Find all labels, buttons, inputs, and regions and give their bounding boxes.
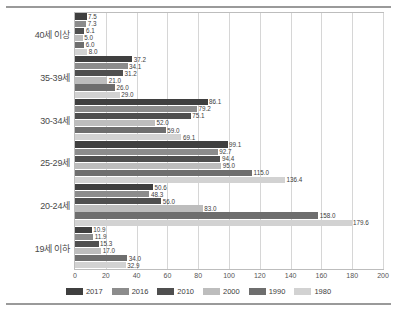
legend-swatch-1980 [294, 288, 311, 295]
bottom-divider [6, 303, 391, 305]
bar-row: 11.9 [75, 234, 397, 240]
bar-row: 37.2 [75, 56, 397, 62]
legend-item-1980[interactable]: 1980 [294, 287, 331, 296]
legend-label-1980: 1980 [314, 287, 331, 296]
bar-row: 10.9 [75, 227, 397, 233]
bar-2016-5 [75, 234, 93, 240]
bar-row: 15.3 [75, 241, 397, 247]
bar-group-2: 86.179.275.152.059.069.1 [75, 99, 397, 141]
bar-1980-2 [75, 134, 181, 140]
y-axis-label-3: 25-29세 [0, 156, 70, 169]
bar-row: 83.0 [75, 205, 397, 211]
top-divider [6, 6, 391, 8]
bar-row: 94.4 [75, 156, 397, 162]
bar-row: 136.4 [75, 177, 397, 183]
bar-row: 158.0 [75, 212, 397, 218]
bar-value-label: 115.0 [252, 168, 269, 177]
legend-swatch-2017 [66, 288, 83, 295]
bar-1980-4 [75, 220, 352, 226]
bar-group-4: 50.648.356.083.0158.0179.6 [75, 184, 397, 226]
bar-value-label: 83.0 [203, 204, 217, 213]
legend-label-2010: 2010 [177, 287, 194, 296]
bar-row: 31.2 [75, 70, 397, 76]
chart-container: 40세 이상35-39세30-34세25-29세20-24세19세 이하 7.5… [0, 0, 397, 316]
x-tick-0: 0 [63, 272, 87, 279]
bar-2010-5 [75, 241, 99, 247]
bar-2000-0 [75, 35, 83, 41]
bar-2010-3 [75, 156, 220, 162]
x-tick-40: 40 [125, 272, 149, 279]
bar-value-label: 59.0 [166, 126, 180, 135]
bar-2017-4 [75, 184, 153, 190]
x-tick-20: 20 [94, 272, 118, 279]
bar-2017-5 [75, 227, 92, 233]
bar-row: 79.2 [75, 106, 397, 112]
bar-row: 32.9 [75, 262, 397, 268]
bar-row: 75.1 [75, 113, 397, 119]
x-tick-160: 160 [309, 272, 333, 279]
bar-value-label: 179.6 [352, 218, 369, 227]
bar-1980-3 [75, 177, 285, 183]
bar-2017-0 [75, 13, 87, 19]
bar-row: 50.6 [75, 184, 397, 190]
legend-item-2010[interactable]: 2010 [157, 287, 194, 296]
x-tick-60: 60 [155, 272, 179, 279]
legend-item-1990[interactable]: 1990 [249, 287, 286, 296]
bar-value-label: 158.0 [318, 211, 335, 220]
bar-value-label: 75.1 [191, 111, 205, 120]
x-tick-100: 100 [217, 272, 241, 279]
bar-value-label: 17.0 [101, 246, 115, 255]
bar-value-label: 32.9 [126, 261, 140, 270]
legend-item-2016[interactable]: 2016 [112, 287, 149, 296]
bar-2016-1 [75, 63, 128, 69]
bar-2017-3 [75, 141, 228, 147]
bar-value-label: 136.4 [285, 175, 302, 184]
legend-label-1990: 1990 [269, 287, 286, 296]
legend-label-2000: 2000 [223, 287, 240, 296]
bar-value-label: 31.2 [123, 69, 137, 78]
bar-row: 8.0 [75, 49, 397, 55]
y-axis-label-4: 20-24세 [0, 199, 70, 212]
legend-item-2017[interactable]: 2017 [66, 287, 103, 296]
bar-group-3: 99.192.794.495.0115.0136.4 [75, 141, 397, 183]
bar-2000-2 [75, 120, 155, 126]
bar-row: 34.0 [75, 255, 397, 261]
bar-2016-4 [75, 191, 149, 197]
bar-value-label: 56.0 [161, 197, 175, 206]
bar-1980-1 [75, 92, 120, 98]
bar-1990-5 [75, 255, 127, 261]
bar-row: 7.5 [75, 13, 397, 19]
bar-row: 99.1 [75, 141, 397, 147]
bar-group-1: 37.234.131.221.026.029.0 [75, 56, 397, 98]
bar-value-label: 29.0 [120, 90, 134, 99]
bar-value-label: 8.0 [87, 47, 97, 56]
bar-row: 86.1 [75, 99, 397, 105]
bar-1980-5 [75, 262, 126, 268]
legend-swatch-2000 [203, 288, 220, 295]
legend-label-2017: 2017 [86, 287, 103, 296]
y-axis-label-5: 19세 이하 [0, 242, 70, 255]
x-tick-180: 180 [340, 272, 364, 279]
bar-row: 52.0 [75, 120, 397, 126]
bar-2017-2 [75, 99, 208, 105]
bar-group-5: 10.911.915.317.034.032.9 [75, 227, 397, 269]
bar-row: 115.0 [75, 170, 397, 176]
legend-item-2000[interactable]: 2000 [203, 287, 240, 296]
bar-2000-1 [75, 77, 107, 83]
bar-2000-5 [75, 248, 101, 254]
y-axis-label-1: 35-39세 [0, 71, 70, 84]
legend-swatch-2010 [157, 288, 174, 295]
y-axis-label-2: 30-34세 [0, 114, 70, 127]
y-axis-label-0: 40세 이상 [0, 28, 70, 41]
bar-row: 95.0 [75, 163, 397, 169]
bar-row: 6.1 [75, 28, 397, 34]
bar-2017-1 [75, 56, 132, 62]
bar-row: 7.3 [75, 21, 397, 27]
legend-label-2016: 2016 [132, 287, 149, 296]
bar-value-label: 69.1 [181, 133, 195, 142]
x-tick-80: 80 [186, 272, 210, 279]
bar-row: 179.6 [75, 220, 397, 226]
bar-row: 6.0 [75, 42, 397, 48]
bar-1990-3 [75, 170, 252, 176]
chart-legend: 201720162010200019901980 [0, 287, 397, 296]
